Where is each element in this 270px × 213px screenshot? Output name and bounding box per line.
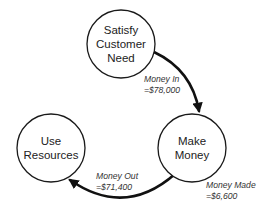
node-label-line: Money <box>175 149 210 161</box>
node-circle <box>17 114 85 182</box>
node-label-line: Resources <box>24 149 79 161</box>
annotation-value: =$6,600 <box>206 191 238 201</box>
node-label-line: Use <box>41 135 61 147</box>
edge-label-value: =$78,000 <box>144 85 180 95</box>
node-use-resources: Use Resources <box>17 114 85 182</box>
money-in-label: Money In =$78,000 <box>144 74 180 95</box>
node-label-line: Satisfy <box>104 24 139 36</box>
node-satisfy-customer-need: Satisfy Customer Need <box>87 10 155 78</box>
business-cycle-diagram: Satisfy Customer Need Make Money Use Res… <box>0 0 270 213</box>
node-make-money: Make Money <box>158 114 226 182</box>
node-label-line: Customer <box>96 38 146 50</box>
node-label-line: Need <box>107 52 135 64</box>
edge-label-title: Money Out <box>96 171 139 181</box>
edge-label-title: Money In <box>144 74 180 84</box>
annotation-title: Money Made <box>206 180 256 190</box>
money-made-annotation: Money Made =$6,600 <box>206 180 256 201</box>
money-out-label: Money Out =$71,400 <box>96 171 139 192</box>
edge-label-value: =$71,400 <box>96 182 132 192</box>
node-circle <box>158 114 226 182</box>
node-label-line: Make <box>178 135 206 147</box>
